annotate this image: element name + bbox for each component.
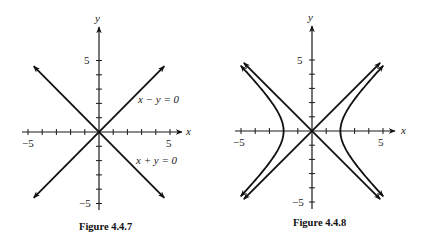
annotation-x-plus-y: x + y = 0: [135, 154, 178, 166]
y-tick-label-neg5: −5: [292, 196, 304, 208]
x-tick-label-neg5: −5: [22, 137, 34, 149]
figure-4-4-8-marks: [235, 26, 395, 209]
x-tick-label-5: 5: [166, 137, 172, 149]
annotation-x-minus-y: x − y = 0: [137, 93, 180, 105]
y-tick-label-5: 5: [84, 54, 90, 66]
figure-4-4-7-marks: [22, 27, 182, 210]
x-axis-label: x: [400, 124, 406, 136]
y-axis-label: y: [94, 12, 100, 24]
figure-caption: Figure 4.4.8: [293, 217, 346, 228]
y-tick-label-5: 5: [297, 54, 303, 66]
y-tick-label-neg5: −5: [79, 197, 91, 209]
figure-caption: Figure 4.4.7: [79, 221, 132, 232]
figure-4-4-7: x y −5 5 5 −5 x − y = 0 x + y = 0 Figure…: [22, 12, 191, 232]
x-tick-label-neg5: −5: [233, 136, 245, 148]
x-tick-label-5: 5: [378, 136, 384, 148]
figures-canvas: x y −5 5 5 −5 x − y = 0 x + y = 0 Figure…: [0, 0, 426, 241]
x-axis-label: x: [185, 125, 191, 137]
figure-4-4-8: x y −5 5 5 −5 Figure 4.4.8: [233, 11, 406, 228]
y-axis-label: y: [307, 11, 313, 23]
